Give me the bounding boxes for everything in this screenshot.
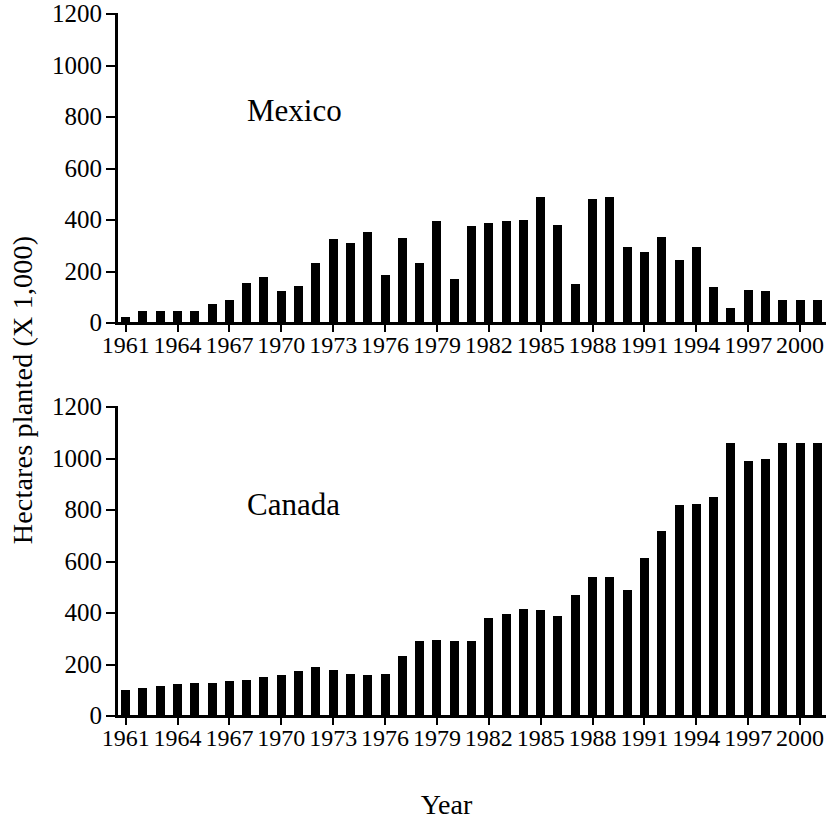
- bar: [588, 577, 597, 716]
- y-axis-tick: [106, 322, 116, 324]
- bar: [329, 670, 338, 716]
- y-axis-tick-label: 600: [32, 156, 102, 181]
- bar: [363, 675, 372, 716]
- y-axis-tick-label: 0: [32, 703, 102, 728]
- bar: [519, 220, 528, 323]
- bar: [190, 683, 199, 716]
- bar: [138, 311, 147, 323]
- x-axis-tick: [177, 717, 179, 725]
- bar: [311, 667, 320, 716]
- x-axis-tick: [125, 717, 127, 725]
- bar: [173, 684, 182, 716]
- bar: [398, 238, 407, 323]
- panel-canada: 0200400600800100012001961196419671970197…: [0, 393, 833, 758]
- bar: [190, 311, 199, 323]
- y-axis-tick: [106, 13, 116, 15]
- y-axis-tick: [106, 406, 116, 408]
- bar: [761, 459, 770, 717]
- x-axis-tick: [436, 324, 438, 332]
- x-axis-tick: [799, 324, 801, 332]
- bar: [277, 291, 286, 323]
- bar: [744, 461, 753, 716]
- y-axis-tick-label: 0: [32, 310, 102, 335]
- x-axis-tick: [280, 324, 282, 332]
- bar: [726, 443, 735, 716]
- x-axis-tick: [177, 324, 179, 332]
- x-axis-tick: [695, 324, 697, 332]
- bar: [571, 595, 580, 716]
- bar: [796, 300, 805, 323]
- y-axis-tick-label: 400: [32, 600, 102, 625]
- bar-series-mexico: [117, 14, 826, 323]
- bar: [623, 247, 632, 323]
- bar: [640, 252, 649, 323]
- bar: [294, 286, 303, 323]
- bar: [225, 300, 234, 323]
- bar: [813, 300, 822, 323]
- y-axis-tick: [106, 664, 116, 666]
- bar: [277, 675, 286, 716]
- x-axis-tick-label: 2000: [768, 332, 832, 358]
- bar: [519, 609, 528, 716]
- bar: [381, 674, 390, 716]
- bar: [761, 291, 770, 323]
- bar: [415, 263, 424, 324]
- bar: [502, 614, 511, 716]
- bar: [156, 686, 165, 716]
- bar: [311, 263, 320, 324]
- bar: [502, 221, 511, 323]
- bar: [571, 284, 580, 323]
- bar: [605, 577, 614, 716]
- bar: [640, 558, 649, 716]
- bar: [363, 232, 372, 323]
- bar: [709, 497, 718, 716]
- bar: [588, 199, 597, 323]
- x-axis-tick: [592, 324, 594, 332]
- bar: [744, 290, 753, 323]
- x-axis-tick: [747, 717, 749, 725]
- bar: [623, 590, 632, 716]
- bar: [242, 283, 251, 323]
- bar: [726, 308, 735, 323]
- bar: [553, 225, 562, 323]
- x-axis-tick: [384, 717, 386, 725]
- x-axis-tick: [280, 717, 282, 725]
- x-axis-tick: [488, 717, 490, 725]
- bar: [484, 618, 493, 716]
- x-axis-tick: [540, 324, 542, 332]
- bar: [675, 505, 684, 716]
- x-axis-tick: [384, 324, 386, 332]
- bar: [450, 641, 459, 716]
- bar: [605, 197, 614, 323]
- bar: [657, 531, 666, 716]
- x-axis-tick: [332, 717, 334, 725]
- y-axis-tick: [106, 509, 116, 511]
- bar: [398, 656, 407, 717]
- series-label-mexico: Mexico: [247, 93, 342, 129]
- bar: [675, 260, 684, 323]
- series-label-canada: Canada: [247, 487, 340, 523]
- y-axis-tick: [106, 715, 116, 717]
- x-axis-tick: [540, 717, 542, 725]
- bar: [657, 237, 666, 323]
- y-axis-tick: [106, 561, 116, 563]
- x-axis-tick: [228, 717, 230, 725]
- bar: [156, 311, 165, 323]
- bar: [432, 640, 441, 716]
- bar: [208, 683, 217, 716]
- bar: [225, 681, 234, 716]
- bar: [346, 674, 355, 716]
- y-axis-tick: [106, 612, 116, 614]
- bar: [467, 226, 476, 323]
- bar: [415, 641, 424, 716]
- x-axis-tick: [228, 324, 230, 332]
- bar: [121, 690, 130, 716]
- y-axis-tick: [106, 458, 116, 460]
- y-axis-tick-label: 800: [32, 104, 102, 129]
- x-axis-tick: [643, 717, 645, 725]
- bar: [709, 287, 718, 323]
- bar-series-canada: [117, 407, 826, 716]
- y-axis-tick: [106, 65, 116, 67]
- x-axis-tick: [643, 324, 645, 332]
- y-axis-tick-label: 1200: [32, 394, 102, 419]
